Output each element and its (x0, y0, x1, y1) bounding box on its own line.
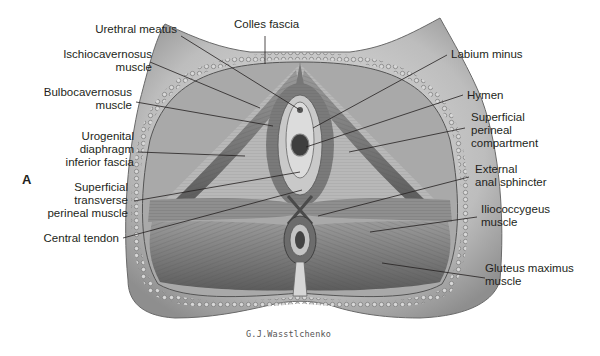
label-superficial-perineal-compartment: Superficial perineal compartment (471, 111, 538, 150)
pelvic-floor-muscles (150, 216, 451, 296)
label-labium-minus: Labium minus (451, 48, 523, 61)
label-gluteus-maximus-muscle: Gluteus maximus muscle (485, 262, 574, 288)
label-ischiocavernosus-muscle: Ischiocavernosus muscle (63, 48, 152, 74)
label-superficial-transverse-perineal-muscle: Superficial transverse perineal muscle (47, 181, 128, 220)
label-bulbocavernosus-muscle: Bulbocavernosus muscle (44, 86, 132, 112)
label-iliococcygeus-muscle: Iliococcygeus muscle (481, 203, 550, 229)
label-hymen: Hymen (467, 89, 503, 102)
label-external-anal-sphincter: External anal sphincter (475, 163, 547, 189)
artist-signature: G.J.Wasstlchenko (246, 329, 331, 339)
label-urethral-meatus: Urethral meatus (95, 23, 177, 36)
panel-letter: A (22, 172, 31, 187)
label-urogenital-diaphragm-inferior-fascia: Urogenital diaphragm inferior fascia (66, 130, 134, 169)
label-colles-fascia: Colles fascia (234, 18, 299, 31)
label-central-tendon: Central tendon (44, 232, 119, 245)
